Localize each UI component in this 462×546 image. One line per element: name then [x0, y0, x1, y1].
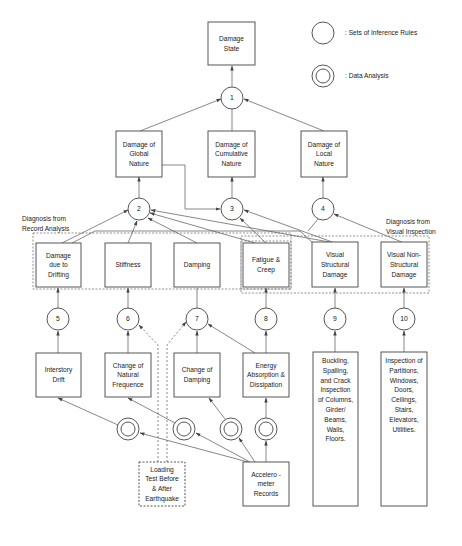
node-label-line: Absorption & [247, 371, 285, 379]
inference-rule-5: 5 [47, 308, 69, 330]
node-cumulative: Damage ofCumulativeNature [208, 131, 255, 177]
edge [239, 438, 255, 462]
node-interstory: InterstoryDrift [36, 353, 81, 397]
inference-rule-4: 4 [312, 198, 334, 220]
node-label-line: Utilities. [392, 426, 415, 433]
node-label-line: Test Before [145, 475, 179, 482]
record-analysis-label-2: Record Analysis [22, 225, 70, 233]
data-analysis-node [173, 418, 195, 440]
inference-rule-number: 6 [126, 315, 130, 322]
node-label-line: and Crack [320, 377, 351, 384]
edge [128, 398, 175, 423]
node-label-line: Damage of [215, 141, 247, 149]
inference-rule-2: 2 [128, 198, 150, 220]
node-stiffness: Stiffness [105, 243, 151, 287]
node-label-line: Inspection [320, 386, 350, 394]
node-label-line: Windows, [390, 377, 419, 384]
node-label-line: Fatigue & [252, 256, 281, 264]
node-natural-freq: Change ofNaturalFrequence [105, 353, 151, 397]
node-label-line: Damage of [308, 141, 340, 149]
data-analysis-inner-circle [121, 422, 135, 436]
node-label-line: Nature [222, 160, 242, 167]
node-label-line: Inspection of [385, 357, 423, 365]
edge [62, 210, 128, 243]
node-label-line: Doors, [394, 386, 414, 393]
node-label-line: Energy [256, 362, 278, 370]
edge [58, 398, 118, 425]
node-label-line: Earthquake [145, 495, 179, 503]
node-damping: Damping [174, 243, 220, 287]
edge [140, 99, 221, 131]
node-label-line: of Columns, [318, 396, 353, 403]
data-analysis-node [117, 418, 139, 440]
node-label-line: Frequence [112, 381, 144, 389]
node-label-line: State [224, 45, 240, 52]
node-label-line: Creep [257, 266, 275, 274]
node-label-line: Natural [117, 371, 139, 378]
legend-data-analysis-inner [316, 69, 330, 83]
inference-rule-1: 1 [221, 87, 243, 109]
inference-rule-8: 8 [255, 308, 277, 330]
node-box [208, 22, 255, 65]
node-label-line: Loading [150, 466, 174, 474]
node-label-line: Drift [52, 376, 64, 383]
node-label-line: & After [152, 485, 173, 492]
node-visual-nonstructural: Visual Non-StructuralDamage [381, 242, 427, 287]
inference-diagram: : Sets of Inference Rules : Data Analysi… [0, 0, 462, 546]
node-label-line: Damage of [123, 141, 155, 149]
edge [308, 219, 318, 231]
inference-rule-number: 4 [321, 205, 325, 212]
data-analysis-node [220, 418, 242, 440]
node-label-line: Cumulative [215, 150, 248, 157]
node-box [243, 243, 289, 287]
edge [208, 324, 255, 353]
node-label-line: Damage [392, 271, 417, 279]
node-buckling: Buckling,Spalling,and CrackInspectionof … [313, 352, 358, 506]
node-accelerometer: Accelero -meterRecords [243, 462, 289, 506]
node-label-line: Elevators, [389, 416, 418, 423]
node-label-line: Global [129, 150, 149, 157]
node-label-line: Stiffness [115, 261, 141, 268]
node-energy: EnergyAbsorption &Dissipation [243, 353, 289, 397]
node-label-line: Drifting [48, 271, 69, 279]
inference-rule-number: 1 [230, 94, 234, 101]
inference-rule-number: 2 [137, 205, 141, 212]
node-label-line: Stairs, [395, 406, 414, 413]
node-label-line: due to [49, 261, 68, 268]
node-label-line: Change of [182, 366, 213, 374]
legend-inference-rules-label: : Sets of Inference Rules [345, 29, 418, 36]
node-label-line: Partitions, [389, 367, 418, 374]
edge [148, 218, 197, 243]
inference-rule-number: 9 [333, 315, 337, 322]
inference-rule-9: 9 [324, 308, 346, 330]
node-label-line: Floors. [325, 435, 345, 442]
node-box [36, 353, 81, 397]
node-label-line: Nature [314, 160, 334, 167]
node-label-line: Records [254, 490, 279, 497]
node-visual-structural: VisualStructuralDamage [312, 242, 358, 287]
node-label-line: Damping [184, 261, 211, 269]
inference-rule-7: 7 [186, 308, 208, 330]
node-inspection: Inspection ofPartitions,Windows,Doors,Ce… [381, 352, 427, 506]
inference-rule-6: 6 [117, 308, 139, 330]
node-local: Damage ofLocalNature [301, 131, 347, 177]
node-label-line: Visual Non- [387, 251, 421, 258]
node-global: Damage ofGlobalNature [116, 131, 162, 177]
data-analysis-inner-circle [259, 422, 273, 436]
node-drifting: Damagedue toDrifting [36, 243, 81, 287]
inference-rule-number: 5 [56, 315, 60, 322]
node-label-line: Visual [326, 251, 344, 258]
node-label-line: Damage [219, 35, 244, 43]
node-label-line: Change of [113, 362, 144, 370]
node-label-line: Nature [129, 160, 149, 167]
data-analysis-inner-circle [177, 422, 191, 436]
edge [240, 218, 266, 243]
node-label-line: Structural [321, 261, 350, 268]
node-label-line: Damping [184, 376, 211, 384]
node-label-line: Local [316, 150, 332, 157]
edge [244, 99, 324, 131]
node-label-line: Walls, [327, 426, 345, 433]
node-label-line: Spalling, [323, 367, 348, 375]
inference-rule-10: 10 [393, 308, 415, 330]
node-box [174, 353, 220, 397]
